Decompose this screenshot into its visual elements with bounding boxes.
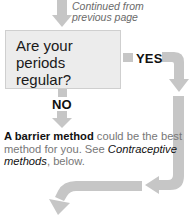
yes-connector xyxy=(123,53,133,62)
no-connector xyxy=(58,89,67,97)
question-line-2: regular? xyxy=(16,71,120,88)
no-arrow-icon xyxy=(52,111,72,128)
barrier-method-text-end: , below. xyxy=(47,155,85,167)
no-label: NO xyxy=(52,97,72,112)
question-text: Are your periods regular? xyxy=(16,37,120,88)
barrier-method-heading: A barrier method xyxy=(4,130,94,142)
barrier-method-outcome: A barrier method could be the best metho… xyxy=(4,130,190,168)
incoming-arrow-icon xyxy=(52,0,72,27)
question-line-1: Are your periods xyxy=(16,37,120,71)
yes-arrow-icon xyxy=(162,52,189,92)
continued-from-previous-note: Continued from previous page xyxy=(72,1,152,23)
bottom-outgoing-arrow-icon xyxy=(49,181,142,215)
continued-note-text: Continued from previous page xyxy=(72,1,152,23)
yes-label: YES xyxy=(136,51,163,66)
